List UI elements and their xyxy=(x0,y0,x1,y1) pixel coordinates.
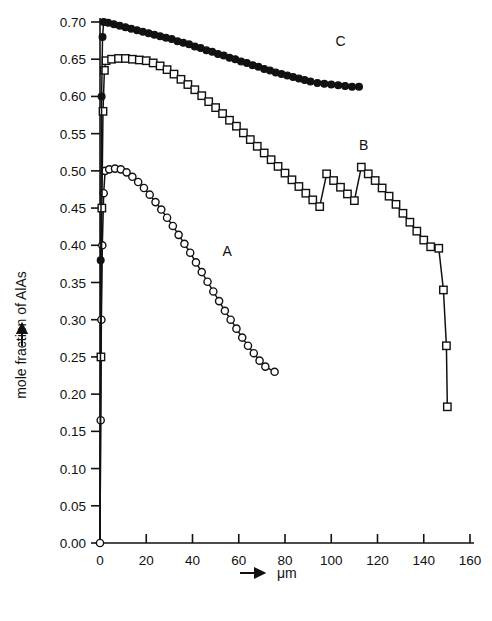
data-point-marker xyxy=(233,325,240,332)
data-point-marker xyxy=(98,93,105,100)
series-a xyxy=(97,165,278,543)
data-point-marker xyxy=(378,184,385,191)
data-point-marker xyxy=(271,368,278,375)
data-point-marker xyxy=(158,206,165,213)
x-tick-label: 0 xyxy=(96,553,104,568)
data-point-marker xyxy=(443,342,450,349)
x-tick-label: 100 xyxy=(320,553,343,568)
data-point-marker xyxy=(328,81,335,88)
data-point-marker xyxy=(316,203,323,210)
data-point-marker xyxy=(204,278,211,285)
chart-figure: 0.000.050.100.150.200.250.300.350.400.45… xyxy=(0,0,492,621)
data-point-marker xyxy=(187,249,194,256)
origin-marker xyxy=(96,539,103,546)
y-tick-label: 0.40 xyxy=(60,238,86,253)
x-tick-label: 120 xyxy=(366,553,389,568)
data-point-marker xyxy=(215,298,222,305)
data-point-marker xyxy=(356,83,363,90)
y-tick-label: 0.30 xyxy=(60,313,86,328)
data-point-marker xyxy=(351,197,358,204)
data-point-marker xyxy=(399,210,406,217)
x-axis-title-group: μm xyxy=(240,565,297,581)
data-point-marker xyxy=(210,288,217,295)
data-point-marker xyxy=(440,286,447,293)
chart-series-labels: ABC xyxy=(223,33,369,260)
y-tick-label: 0.50 xyxy=(60,164,86,179)
data-point-marker xyxy=(250,350,257,357)
y-tick-label: 0.65 xyxy=(60,52,86,67)
y-tick-label: 0.55 xyxy=(60,127,86,142)
data-point-marker xyxy=(427,243,434,250)
data-point-marker xyxy=(227,316,234,323)
data-point-marker xyxy=(175,231,182,238)
data-point-marker xyxy=(349,83,356,90)
data-point-marker xyxy=(198,268,205,275)
data-point-marker xyxy=(256,357,263,364)
series-label-b: B xyxy=(359,137,368,153)
data-point-marker xyxy=(140,184,147,191)
data-point-marker xyxy=(152,199,159,206)
data-point-marker xyxy=(335,82,342,89)
data-point-marker xyxy=(99,108,106,115)
data-point-marker xyxy=(435,245,442,252)
series-b xyxy=(97,55,451,543)
x-tick-label: 40 xyxy=(185,553,200,568)
x-tick-label: 140 xyxy=(412,553,435,568)
y-tick-label: 0.05 xyxy=(60,499,86,514)
data-point-marker xyxy=(244,342,251,349)
data-point-marker xyxy=(314,80,321,87)
x-axis-title: μm xyxy=(277,565,297,581)
x-tick-label: 60 xyxy=(231,553,246,568)
data-point-marker xyxy=(239,334,246,341)
chart-svg: 0.000.050.100.150.200.250.300.350.400.45… xyxy=(0,0,492,621)
series-c xyxy=(97,19,362,543)
series-label-a: A xyxy=(223,243,233,259)
data-point-marker xyxy=(321,80,328,87)
series-line xyxy=(100,22,359,543)
data-point-marker xyxy=(444,403,451,410)
data-point-marker xyxy=(181,240,188,247)
data-point-marker xyxy=(342,83,349,90)
y-tick-label: 0.25 xyxy=(60,350,86,365)
data-point-marker xyxy=(169,222,176,229)
x-tick-label: 20 xyxy=(139,553,154,568)
y-tick-label: 0.60 xyxy=(60,89,86,104)
data-point-marker xyxy=(98,204,105,211)
data-point-marker xyxy=(99,33,106,40)
data-point-marker xyxy=(163,214,170,221)
chart-series xyxy=(96,19,451,547)
y-axis-title-group: mole fraction of AlAs xyxy=(13,271,29,399)
y-tick-label: 0.45 xyxy=(60,201,86,216)
data-point-marker xyxy=(392,201,399,208)
x-axis-ticks: 020406080100120140160 xyxy=(96,534,481,568)
y-tick-label: 0.15 xyxy=(60,424,86,439)
y-tick-label: 0.10 xyxy=(60,462,86,477)
data-point-marker xyxy=(97,257,104,264)
y-tick-label: 0.70 xyxy=(60,15,86,30)
data-point-marker xyxy=(371,177,378,184)
data-point-marker xyxy=(413,227,420,234)
y-axis-ticks: 0.000.050.100.150.200.250.300.350.400.45… xyxy=(60,15,100,551)
data-point-marker xyxy=(385,192,392,199)
y-tick-label: 0.00 xyxy=(60,536,86,551)
series-line xyxy=(100,58,447,543)
x-tick-label: 160 xyxy=(459,553,482,568)
data-point-marker xyxy=(406,219,413,226)
data-point-marker xyxy=(135,178,142,185)
data-point-marker xyxy=(192,259,199,266)
series-label-c: C xyxy=(335,33,345,49)
y-tick-label: 0.20 xyxy=(60,387,86,402)
right-arrow-icon xyxy=(240,569,264,578)
y-tick-label: 0.35 xyxy=(60,276,86,291)
data-point-marker xyxy=(262,363,269,370)
data-point-marker xyxy=(221,307,228,314)
data-point-marker xyxy=(146,191,153,198)
data-point-marker xyxy=(307,78,314,85)
series-line xyxy=(100,169,275,543)
